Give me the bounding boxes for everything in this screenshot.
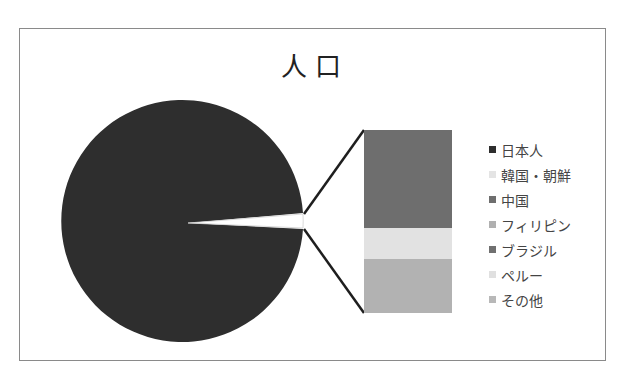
legend-label: 中国 <box>501 190 529 210</box>
legend-item-other[interactable]: その他 <box>489 287 571 312</box>
legend-marker-icon <box>489 196 496 203</box>
legend: 日本人 韓国・朝鮮 中国 フィリピン ブラジル ペルー その他 <box>489 137 571 312</box>
legend-label: フィリピン <box>501 215 571 235</box>
legend-label: その他 <box>501 290 543 310</box>
connector-line-bottom <box>304 229 364 313</box>
legend-marker-icon <box>489 271 496 278</box>
legend-label: 日本人 <box>501 140 543 160</box>
legend-item-china[interactable]: 中国 <box>489 187 571 212</box>
bar-segment-bottom[interactable] <box>364 259 452 313</box>
legend-item-philippines[interactable]: フィリピン <box>489 212 571 237</box>
legend-item-brazil[interactable]: ブラジル <box>489 237 571 262</box>
legend-marker-icon <box>489 146 496 153</box>
bar-segment-middle[interactable] <box>364 228 452 259</box>
legend-item-korea[interactable]: 韓国・朝鮮 <box>489 162 571 187</box>
legend-marker-icon <box>489 221 496 228</box>
legend-label: 韓国・朝鮮 <box>501 165 571 185</box>
bar-segment-top[interactable] <box>364 130 452 228</box>
legend-marker-icon <box>489 246 496 253</box>
legend-marker-icon <box>489 296 496 303</box>
legend-item-peru[interactable]: ペルー <box>489 262 571 287</box>
legend-label: ペルー <box>501 265 543 285</box>
legend-label: ブラジル <box>501 240 557 260</box>
connector-line-top <box>304 130 364 214</box>
legend-item-japanese[interactable]: 日本人 <box>489 137 571 162</box>
legend-marker-icon <box>489 171 496 178</box>
